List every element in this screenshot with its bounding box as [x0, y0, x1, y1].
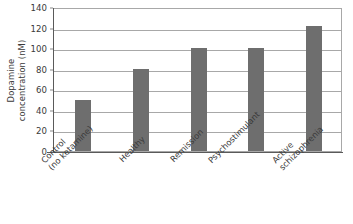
y-axis-tick-labels: 020406080100120140 — [20, 8, 47, 152]
y-axis-tick-label: 80 — [20, 65, 47, 74]
y-axis-tick-label: 20 — [20, 127, 47, 136]
y-axis-tick-label: 40 — [20, 107, 47, 116]
bar — [248, 48, 264, 151]
y-axis-tick-label: 140 — [20, 4, 47, 13]
bar-chart-figure: Dopamine concentration (nM) 020406080100… — [0, 0, 353, 224]
y-axis-tick-label: 60 — [20, 86, 47, 95]
y-axis-line — [53, 8, 54, 153]
y-axis-title-line-1: Dopamine — [7, 58, 17, 102]
y-axis-tick-label: 120 — [20, 24, 47, 33]
y-axis-tick-label: 100 — [20, 45, 47, 54]
x-axis-tick-labels: Control(no ketamine)HealthyRemissionPsyc… — [53, 153, 342, 224]
